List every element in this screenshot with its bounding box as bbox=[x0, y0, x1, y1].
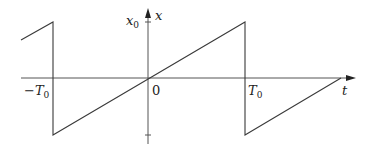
amplitude-label: x0 bbox=[126, 14, 139, 30]
vertical-axis-label: x bbox=[155, 9, 162, 22]
x-axis-arrow-icon bbox=[145, 8, 151, 18]
sawtooth-diagram: x0 x −T0 0 T0 t bbox=[0, 0, 369, 149]
horizontal-axis-label: t bbox=[342, 84, 347, 97]
diagram-svg bbox=[0, 0, 369, 149]
neg-period-label: −T0 bbox=[24, 84, 49, 100]
pos-period-label: T0 bbox=[248, 84, 262, 100]
t-axis-arrow-icon bbox=[346, 75, 356, 81]
origin-label: 0 bbox=[152, 84, 160, 97]
